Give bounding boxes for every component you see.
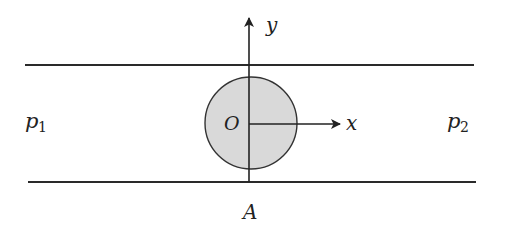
cylinder-circle: [205, 77, 297, 169]
y-axis-label: y: [265, 13, 278, 37]
pressure-p1-label: p 1: [25, 109, 47, 135]
p2-subscript: 2: [460, 119, 469, 135]
point-a-label: A: [241, 200, 257, 224]
origin-label: O: [224, 112, 240, 134]
p1-subscript: 1: [38, 119, 47, 135]
p2-base: p: [447, 109, 460, 133]
p1-base: p: [25, 109, 38, 133]
x-axis-label: x: [346, 111, 357, 135]
pressure-p2-label: p 2: [447, 109, 469, 135]
channel-flow-diagram: y x O A p 1 p 2: [0, 0, 505, 228]
